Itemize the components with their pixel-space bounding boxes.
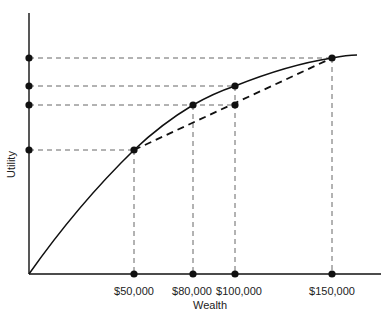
x-marker-80k (189, 270, 196, 277)
x-marker-100k (231, 270, 238, 277)
y-marker-50k (25, 146, 32, 153)
x-axis-label: Wealth (193, 299, 227, 311)
guide-lines (29, 58, 332, 274)
x-marker-150k (328, 270, 335, 277)
y-marker-150k (25, 54, 32, 61)
x-tick-150k: $150,000 (309, 285, 355, 297)
point-curve-100k (231, 82, 238, 89)
utility-chart (0, 0, 389, 318)
y-marker-80k (25, 101, 32, 108)
x-tick-100k: $100,000 (216, 285, 262, 297)
point-curve-80k (189, 101, 196, 108)
point-curve-50k (130, 146, 137, 153)
y-axis-label: Utility (5, 151, 17, 178)
y-marker-100k (25, 82, 32, 89)
x-marker-50k (130, 270, 137, 277)
point-curve-150k (328, 54, 335, 61)
data-points (25, 54, 335, 277)
x-tick-50k: $50,000 (114, 285, 154, 297)
point-chord-100k (231, 101, 238, 108)
x-tick-80k: $80,000 (172, 285, 212, 297)
